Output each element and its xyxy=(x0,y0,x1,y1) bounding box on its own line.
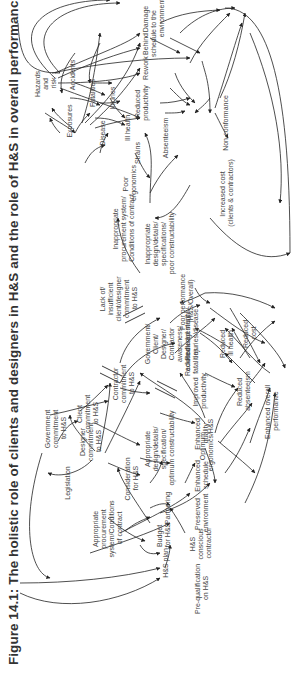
node-exposures: Exposures xyxy=(66,104,74,138)
node-reduced-absenteeism: Reduced absenteeism xyxy=(236,371,251,411)
svg-text:Rework: Rework xyxy=(142,56,149,80)
node-inappropriate-procurement: Inappropriate procurement system/ Condit… xyxy=(112,194,135,262)
svg-text:Poor performance (H&S/: Poor performance (H&S/Overall) xyxy=(179,272,195,330)
node-appropriate-procurement: Appropriate procurement system/Condition… xyxy=(92,498,123,557)
svg-text:Absenteeism: Absenteeism xyxy=(162,118,169,159)
svg-text:Consideration for H&S: Consideration for H&S xyxy=(124,455,139,500)
node-designer-commitment: Designer commitment to H&S xyxy=(79,421,102,461)
node-strains: Strains xyxy=(134,142,141,164)
svg-text:Non-conformance: Non-conformance xyxy=(222,95,229,151)
svg-text:Disease: Disease xyxy=(99,120,106,145)
svg-text:Accidents: Accidents xyxy=(69,59,76,90)
svg-text:Increased cost (client: Increased cost (clients & contractors) xyxy=(219,159,235,227)
svg-text:Designer commitment: Designer commitment to H&S xyxy=(79,421,102,461)
svg-text:Reduced absenteeism: Reduced absenteeism xyxy=(236,371,251,411)
node-prequalification: Pre-qualification on H&S xyxy=(194,562,209,614)
svg-text:Hazards and ri: Hazards and risk xyxy=(34,69,57,97)
svg-text:Enhanced schedule: Enhanced schedule xyxy=(194,458,209,491)
causal-diagram: Legislation Government commitment to H&S… xyxy=(0,0,296,673)
node-legislation: Legislation xyxy=(64,466,72,500)
svg-text:Legislation: Legislation xyxy=(64,466,72,500)
node-hazards-and-risk: Hazards and risk xyxy=(34,69,57,97)
node-partnering: Partnering xyxy=(164,492,172,524)
node-government-commitment: Government commitment to H&S xyxy=(44,408,67,448)
svg-text:Appropriate design/det: Appropriate design/details/ specificatio… xyxy=(144,410,176,486)
svg-text:Ill health: Ill health xyxy=(124,115,131,141)
node-increased-cost: Increased cost (clients & contractors) xyxy=(219,159,235,227)
svg-text:Government commitment: Government commitment to H&S xyxy=(44,408,67,448)
svg-text:Behind schedule: Behind schedule xyxy=(142,29,157,57)
node-improved-productivity: Improved productivity xyxy=(192,373,208,409)
node-non-conformance: Non-conformance xyxy=(222,95,229,151)
svg-text:Exposures: Exposures xyxy=(66,104,74,138)
svg-text:Enhanced overall perfo: Enhanced overall performance xyxy=(264,383,280,439)
node-reduced-ill-health: Reduced ill health xyxy=(219,328,234,358)
node-disease: Disease xyxy=(99,120,106,145)
node-enhanced-schedule: Enhanced schedule xyxy=(194,458,209,491)
node-fatalities: Fatalities xyxy=(89,78,96,107)
node-poor-performance: Poor performance (H&S/Overall) xyxy=(179,272,195,330)
svg-text:Improved productivity: Improved productivity xyxy=(192,373,208,409)
node-rework: Rework xyxy=(142,56,149,80)
node-injuries: Injuries xyxy=(109,86,117,109)
node-lack-of-commitment: Lack of/ insufficient client/designer co… xyxy=(99,274,138,321)
node-absenteeism: Absenteeism xyxy=(162,118,169,159)
svg-text:Inappropriate design/d: Inappropriate design/details/ specificat… xyxy=(144,211,176,274)
svg-text:Reduced ill health: Reduced ill health xyxy=(219,328,234,358)
node-consideration-for-hs: Consideration for H&S xyxy=(124,455,139,500)
node-inappropriate-design: Inappropriate design/details/ specificat… xyxy=(144,211,176,274)
node-accidents: Accidents xyxy=(69,59,76,90)
svg-text:Preserved environment: Preserved environment xyxy=(194,494,209,533)
node-ill-health: Ill health xyxy=(124,115,131,141)
svg-text:Strains: Strains xyxy=(134,142,141,164)
svg-text:Fatalities: Fatalities xyxy=(89,78,96,107)
node-reduced-productivity: Reduced productivity xyxy=(134,85,150,121)
node-contractor-commitment: Contractor commitment to H&S xyxy=(112,363,135,403)
svg-text:Inappropriate procurem: Inappropriate procurement system/ Condit… xyxy=(112,194,135,262)
svg-text:Injuries: Injuries xyxy=(109,86,117,109)
node-hs-plan: H&S plan xyxy=(162,548,170,578)
svg-text:Contractor commitment: Contractor commitment to H&S xyxy=(112,363,135,403)
svg-text:H&S plan: H&S plan xyxy=(162,548,170,578)
node-preserved-environment: Preserved environment xyxy=(194,494,209,533)
svg-text:Pre-qualification on H: Pre-qualification on H&S xyxy=(194,562,209,614)
svg-text:Partnering: Partnering xyxy=(164,492,172,524)
svg-text:Appropriate procuremen: Appropriate procurement system/Condition… xyxy=(92,498,123,557)
node-budget-for-hs: Budget for H&S xyxy=(156,522,171,547)
node-appropriate-design: Appropriate design/details/ specificatio… xyxy=(144,410,176,486)
node-behind-schedule: Behind schedule xyxy=(142,29,157,57)
svg-text:Budget for H&S: Budget for H&S xyxy=(156,522,171,547)
figure-canvas: Figure 14.1: The holistic role of client… xyxy=(0,0,296,673)
svg-text:Reduced productivity: Reduced productivity xyxy=(134,85,150,121)
node-enhanced-overall-performance: Enhanced overall performance xyxy=(264,383,280,439)
svg-text:Lack of/ insufficient: Lack of/ insufficient client/designer co… xyxy=(99,274,138,321)
